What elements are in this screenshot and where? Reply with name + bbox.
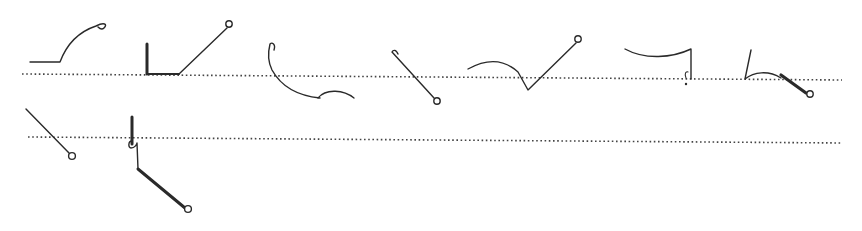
shorthand-glyph-9: [129, 117, 192, 212]
hook-circle: [575, 36, 581, 42]
shorthand-glyph-2: [147, 21, 232, 74]
shorthand-glyph-7: [745, 50, 813, 97]
shorthand-glyphs: [26, 21, 813, 213]
pen-stroke: [745, 50, 781, 79]
shorthand-glyph-5: [468, 36, 581, 90]
pen-stroke: [625, 49, 691, 79]
hook-circle: [434, 98, 440, 104]
hook-circle: [69, 153, 76, 160]
shorthand-glyph-1: [30, 24, 106, 62]
pen-stroke: [781, 75, 806, 93]
vowel-dot: [685, 83, 687, 85]
baselines: [22, 74, 842, 143]
dotted-baseline-line-2: [28, 137, 842, 143]
pen-stroke: [26, 109, 69, 153]
pen-stroke: [179, 28, 227, 74]
pen-stroke: [468, 43, 576, 90]
pen-stroke: [30, 24, 106, 62]
hook-circle: [185, 206, 192, 213]
shorthand-glyph-6: [625, 49, 691, 85]
shorthand-glyph-4: [392, 50, 440, 104]
shorthand-glyph-3: [269, 43, 354, 98]
pen-stroke: [685, 72, 688, 78]
hook-circle: [807, 91, 813, 97]
pen-stroke: [138, 169, 185, 208]
pen-stroke: [129, 141, 138, 169]
pen-stroke: [269, 43, 320, 98]
dotted-baseline-line-1: [22, 74, 842, 80]
pen-stroke: [392, 50, 434, 98]
hook-circle: [226, 21, 232, 27]
pen-stroke: [318, 91, 354, 98]
shorthand-glyph-8: [26, 109, 75, 159]
shorthand-figure: [0, 0, 862, 231]
